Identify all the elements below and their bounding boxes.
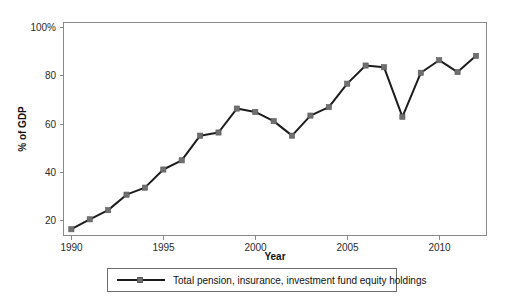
data-point-1993 (124, 192, 129, 197)
data-point-1998 (216, 130, 221, 135)
legend-marker-icon (137, 277, 143, 283)
data-point-2007 (381, 65, 386, 70)
data-point-2004 (326, 105, 331, 110)
data-point-2001 (271, 119, 276, 124)
line-chart-svg: 20406080100% 19901995200020052010 % of G… (0, 0, 507, 263)
data-point-2009 (418, 70, 423, 75)
x-tick-label-2010: 2010 (428, 242, 451, 253)
y-tick-label-60: 60 (45, 119, 57, 130)
data-point-2012 (473, 53, 478, 58)
plot-frame (64, 23, 487, 236)
data-point-2010 (437, 58, 442, 63)
data-point-1996 (179, 158, 184, 163)
chart-legend: Total pension, insurance, investment fun… (107, 268, 397, 292)
y-tick-label-80: 80 (45, 70, 57, 81)
series-line-total-pension-insurance-investment-fund-equity-holdings (71, 56, 476, 229)
data-point-1997 (198, 133, 203, 138)
y-tick-label-100%: 100% (30, 22, 56, 33)
y-tick-label-20: 20 (45, 215, 57, 226)
data-point-2008 (400, 114, 405, 119)
data-point-1994 (142, 185, 147, 190)
x-tick-label-1995: 1995 (152, 242, 175, 253)
legend-item-label: Total pension, insurance, investment fun… (173, 275, 427, 286)
x-axis-ticks: 19901995200020052010 (60, 236, 451, 253)
data-point-1992 (106, 208, 111, 213)
data-point-2000 (253, 109, 258, 114)
data-point-1991 (87, 217, 92, 222)
data-point-2006 (363, 63, 368, 68)
x-tick-label-1990: 1990 (60, 242, 83, 253)
x-axis-title: Year (264, 251, 285, 262)
data-point-2003 (308, 113, 313, 118)
y-axis-ticks: 20406080100% (30, 22, 64, 226)
data-point-2011 (455, 69, 460, 74)
data-point-2005 (345, 81, 350, 86)
y-tick-label-40: 40 (45, 167, 57, 178)
legend-swatch-icon (117, 274, 165, 286)
data-point-1999 (234, 106, 239, 111)
y-axis-title: % of GDP (17, 106, 28, 152)
chart-plot-area: 20406080100% 19901995200020052010 % of G… (0, 0, 507, 263)
data-point-2002 (289, 133, 294, 138)
chart-figure: 20406080100% 19901995200020052010 % of G… (0, 0, 507, 303)
x-tick-label-2005: 2005 (336, 242, 359, 253)
data-point-1995 (161, 167, 166, 172)
data-point-1990 (69, 227, 74, 232)
